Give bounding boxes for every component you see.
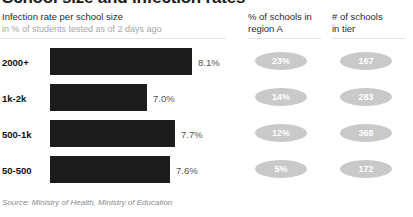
chart-header-block: Infection rate per school size in % of s… (2, 11, 224, 35)
column-header-schools-in-tier-line2: in tier (332, 23, 410, 35)
divider-column-schools-in-tier (332, 38, 405, 39)
badge-pct-region-a: 12% (255, 124, 307, 142)
row-label: 500-1k (2, 129, 32, 140)
chart-rows: 2000+ 8.1% 23% 167 1k-2k 7.0% 14% 283 50… (0, 46, 413, 190)
row-label: 1k-2k (2, 93, 26, 104)
table-row: 500-1k 7.7% 12% 368 (0, 118, 413, 154)
badge-schools-in-tier: 172 (340, 160, 392, 178)
bar (50, 84, 147, 111)
column-headers: Infection rate per school size in % of s… (0, 11, 413, 41)
column-header-pct-region-a-line2: region A (248, 23, 328, 35)
column-header-pct-region-a: % of schools in region A (248, 11, 328, 35)
row-label: 50-500 (2, 165, 32, 176)
table-row: 50-500 7.6% 5% 172 (0, 154, 413, 190)
bar (50, 48, 192, 75)
page-title-clip: School size and infection rates (0, 0, 413, 9)
bar (50, 120, 175, 147)
badge-pct-region-a: 23% (255, 52, 307, 70)
bar-value-label: 8.1% (198, 57, 220, 68)
bar-value-label: 7.0% (153, 93, 175, 104)
bar-value-label: 7.7% (181, 129, 203, 140)
divider-column-pct-region-a (248, 38, 321, 39)
column-header-schools-in-tier: # of schools in tier (332, 11, 410, 35)
bar (50, 156, 170, 183)
badge-pct-region-a: 14% (255, 88, 307, 106)
column-header-schools-in-tier-line1: # of schools (332, 11, 410, 23)
badge-schools-in-tier: 167 (340, 52, 392, 70)
table-row: 2000+ 8.1% 23% 167 (0, 46, 413, 82)
badge-schools-in-tier: 368 (340, 124, 392, 142)
row-label: 2000+ (2, 57, 29, 68)
table-row: 1k-2k 7.0% 14% 283 (0, 82, 413, 118)
chart-header-title: Infection rate per school size (2, 11, 224, 23)
badge-pct-region-a: 5% (255, 160, 307, 178)
page-title: School size and infection rates (2, 0, 245, 8)
chart-header-subtitle: in % of students tested as of 2 days ago (2, 23, 224, 35)
divider-left (0, 38, 226, 39)
source-note: Source: Ministry of Health, Ministry of … (2, 198, 172, 207)
badge-schools-in-tier: 283 (340, 88, 392, 106)
column-header-pct-region-a-line1: % of schools in (248, 11, 328, 23)
bar-value-label: 7.6% (176, 165, 198, 176)
